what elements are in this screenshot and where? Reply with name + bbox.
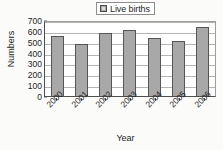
bar-2000 — [51, 36, 64, 96]
y-tick-label: 0 — [37, 93, 42, 102]
bar-2004 — [148, 38, 161, 96]
y-tick-label: 300 — [28, 60, 42, 69]
legend-swatch-icon — [100, 5, 107, 12]
bar-2005 — [172, 41, 185, 96]
plot-area — [44, 21, 216, 97]
legend-label-live-births: Live births — [110, 4, 150, 14]
y-tick-label: 600 — [28, 27, 42, 36]
y-axis-title: Numbers — [6, 21, 16, 77]
y-tick-label: 200 — [28, 71, 42, 80]
y-tick-label: 500 — [28, 38, 42, 47]
bar-2006 — [196, 27, 209, 96]
y-tick-label: 100 — [28, 82, 42, 91]
bar-2003 — [123, 30, 136, 96]
bar-2002 — [99, 33, 112, 96]
live-births-bar-chart: Live births Numbers 01002003004005006007… — [0, 0, 223, 150]
x-axis-title: Year — [0, 133, 223, 143]
y-tick-label: 700 — [28, 17, 42, 26]
y-tick-label: 400 — [28, 49, 42, 58]
bar-series-live-births — [45, 22, 215, 96]
chart-legend: Live births — [96, 2, 155, 15]
y-axis-tick-labels: 0100200300400500600700 — [20, 21, 44, 97]
x-axis-tick-labels: 2000200120022003200420052006 — [44, 98, 216, 132]
